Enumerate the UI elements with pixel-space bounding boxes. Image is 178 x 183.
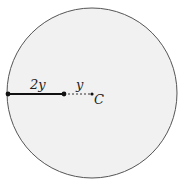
diagram-canvas: 2y y C (0, 0, 178, 183)
edge-point (6, 92, 11, 97)
label-y: y (75, 77, 84, 92)
circle-diagram: 2y y C (0, 0, 178, 183)
label-center-c: C (94, 92, 104, 107)
label-2y: 2y (29, 77, 46, 92)
mid-point (62, 92, 67, 97)
